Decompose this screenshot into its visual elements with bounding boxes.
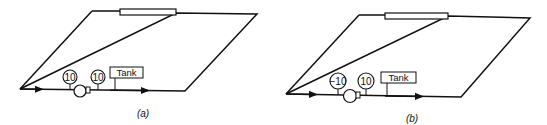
gauge-value: 10 xyxy=(360,76,372,87)
pump-outlet xyxy=(356,92,360,98)
flow-arrow-icon xyxy=(385,96,422,97)
diagram-canvas: 10 10 Tank (a) −10 10 Tank (b) xyxy=(0,0,547,125)
caption-a: (a) xyxy=(137,108,149,119)
flow-arrow-icon xyxy=(286,94,316,95)
pipe-loop-b xyxy=(286,15,530,97)
tank-label: Tank xyxy=(388,72,408,83)
caption-b: (b) xyxy=(406,113,418,124)
gauge-value: 10 xyxy=(64,72,76,83)
gauge-value: 10 xyxy=(92,72,104,83)
gauge-value: −10 xyxy=(330,76,347,87)
panel-a: 10 10 Tank (a) xyxy=(20,9,257,119)
heat-exchanger-b xyxy=(385,13,448,19)
pump-icon xyxy=(344,90,357,103)
pump-outlet xyxy=(86,87,90,93)
heat-exchanger-a xyxy=(120,9,176,15)
tank-label: Tank xyxy=(116,67,136,78)
panel-b: −10 10 Tank (b) xyxy=(286,13,530,124)
pump-icon xyxy=(74,85,86,97)
